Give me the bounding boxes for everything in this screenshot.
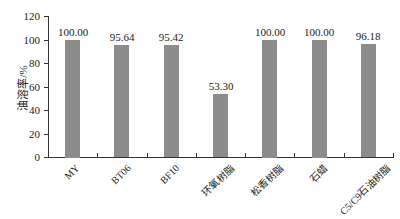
bar-4 — [262, 40, 277, 158]
bar-1 — [114, 45, 129, 157]
value-label: 53.30 — [196, 81, 246, 92]
bar-0 — [65, 40, 80, 158]
value-label: 100.00 — [245, 27, 295, 38]
y-tick-mark — [44, 110, 48, 111]
value-label: 100.00 — [294, 27, 344, 38]
y-tick-label: 40 — [16, 105, 40, 116]
x-tick-mark — [245, 153, 246, 157]
x-tick-mark — [196, 153, 197, 157]
y-tick-mark — [44, 63, 48, 64]
y-tick-label: 0 — [16, 152, 40, 163]
y-tick-label: 120 — [16, 11, 40, 22]
bar-2 — [164, 45, 179, 157]
x-tick-label: BT06 — [110, 163, 133, 186]
y-tick-label: 20 — [16, 129, 40, 140]
x-tick-label: 松香树脂 — [250, 163, 285, 198]
x-axis-line — [48, 157, 394, 158]
x-tick-label: MY — [63, 163, 81, 181]
y-tick-label: 60 — [16, 82, 40, 93]
value-label: 100.00 — [48, 27, 98, 38]
value-label: 95.42 — [146, 32, 196, 43]
y-tick-label: 80 — [16, 58, 40, 69]
bar-6 — [361, 44, 376, 157]
x-tick-mark — [344, 153, 345, 157]
value-label: 96.18 — [343, 31, 393, 42]
bar-3 — [213, 94, 228, 157]
x-tick-label: 环氧树脂 — [201, 163, 236, 198]
bar-chart: 油溶率/% 020406080100120 100.00MY95.64BT069… — [0, 0, 400, 219]
bar-5 — [312, 40, 327, 158]
y-tick-mark — [44, 134, 48, 135]
x-tick-label: BF10 — [159, 163, 182, 186]
y-tick-mark — [44, 40, 48, 41]
x-tick-label: C5/C9石油树脂 — [338, 163, 392, 217]
y-tick-label: 100 — [16, 35, 40, 46]
x-tick-mark — [393, 153, 394, 157]
x-tick-mark — [97, 153, 98, 157]
x-tick-mark — [147, 153, 148, 157]
x-tick-mark — [294, 153, 295, 157]
y-tick-mark — [44, 87, 48, 88]
y-tick-mark — [44, 157, 48, 158]
x-tick-label: 石蜡 — [308, 163, 329, 184]
value-label: 95.64 — [97, 32, 147, 43]
y-tick-mark — [44, 16, 48, 17]
